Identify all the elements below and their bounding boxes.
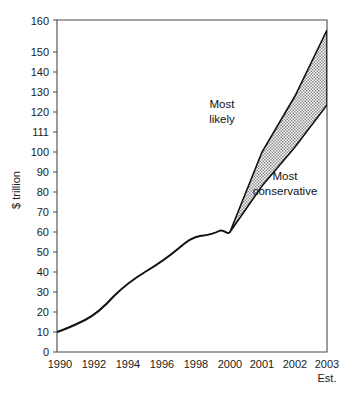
x-tick-label: 2000 xyxy=(218,358,242,370)
y-tick-label: 50 xyxy=(37,246,49,258)
x-axis-note: Est. xyxy=(318,372,337,384)
x-tick-label: 2003 xyxy=(315,358,339,370)
y-tick-label: 90 xyxy=(37,166,49,178)
y-tick-label: 150 xyxy=(31,46,49,58)
y-tick-label: 40 xyxy=(37,266,49,278)
y-tick-label: 0 xyxy=(43,346,49,358)
x-tick-label: 1990 xyxy=(48,358,72,370)
y-tick-label: 100 xyxy=(31,146,49,158)
x-tick-label: 1994 xyxy=(116,358,140,370)
y-tick-label: 140 xyxy=(31,66,49,78)
y-tick-label: 70 xyxy=(37,206,49,218)
annotation-most-conservative-line2: conservative xyxy=(253,185,318,197)
x-tick-label: 2001 xyxy=(250,358,274,370)
y-axis-title: $ trillion xyxy=(10,171,22,209)
y-tick-label: 111 xyxy=(32,126,49,138)
x-tick-label: 1998 xyxy=(184,358,208,370)
chart-figure: 0 10 20 30 40 50 60 70 80 90 100 111 120… xyxy=(0,0,358,399)
annotation-most-conservative-line1: Most xyxy=(273,170,299,182)
y-tick-label: 130 xyxy=(31,86,49,98)
projection-line-chart: 0 10 20 30 40 50 60 70 80 90 100 111 120… xyxy=(0,0,358,399)
x-tick-label: 1992 xyxy=(82,358,106,370)
y-tick-label: 80 xyxy=(37,186,49,198)
y-tick-label: 160 xyxy=(31,15,49,27)
chart-background xyxy=(0,0,358,399)
x-tick-label: 1996 xyxy=(150,358,174,370)
annotation-most-likely-line2: likely xyxy=(209,113,235,125)
annotation-most-likely-line1: Most xyxy=(210,98,236,110)
y-tick-label: 20 xyxy=(37,306,49,318)
y-tick-label: 60 xyxy=(37,226,49,238)
y-tick-label: 120 xyxy=(31,106,49,118)
y-tick-label: 30 xyxy=(37,286,49,298)
y-tick-label: 10 xyxy=(37,326,49,338)
x-tick-label: 2002 xyxy=(283,358,307,370)
